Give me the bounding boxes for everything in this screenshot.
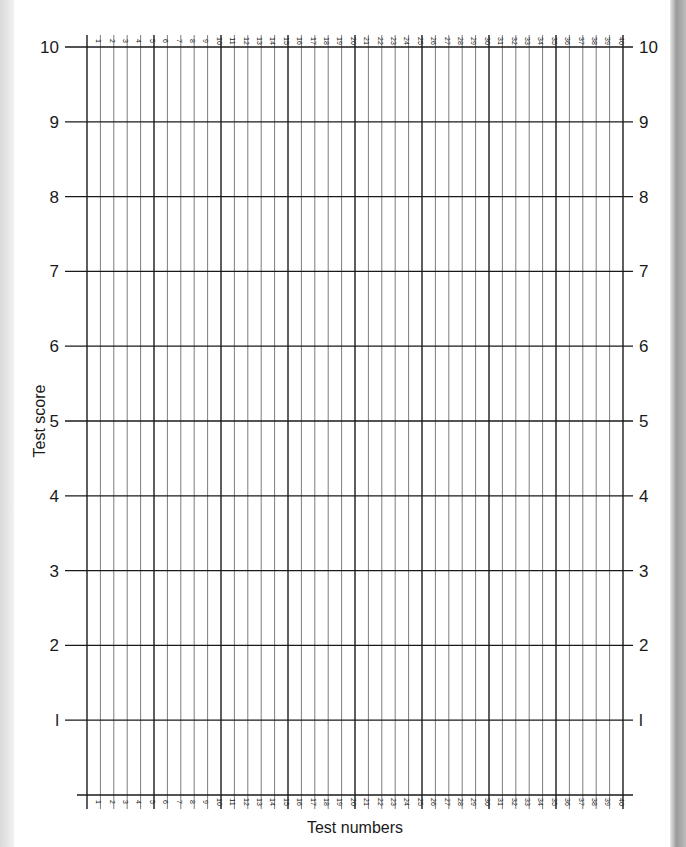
- x-tick-label-top: 1: [95, 39, 102, 43]
- x-tick-label-bottom: 25: [417, 798, 424, 806]
- x-tick-label-top: 24: [403, 37, 410, 45]
- x-tick-label-bottom: 39: [604, 798, 611, 806]
- x-tick-label-top: 33: [524, 37, 531, 45]
- x-tick-label-top: 40: [618, 37, 625, 45]
- x-tick-label-top: 8: [189, 39, 196, 43]
- x-tick-label-top: 3: [122, 39, 129, 43]
- x-tick-label-bottom: 3: [122, 800, 129, 804]
- y-tick-label-left: 2: [50, 636, 59, 655]
- y-tick-label-right: 8: [639, 188, 648, 207]
- y-tick-label-left: 3: [50, 562, 59, 581]
- x-tick-label-bottom: 26: [430, 798, 437, 806]
- y-tick-label-left: 4: [50, 487, 59, 506]
- x-tick-label-bottom: 36: [564, 798, 571, 806]
- x-tick-label-top: 2: [109, 39, 116, 43]
- x-tick-label-bottom: 24: [403, 798, 410, 806]
- x-tick-label-bottom: 5: [149, 800, 156, 804]
- y-tick-label-left: 10: [40, 38, 59, 57]
- x-tick-label-top: 29: [470, 37, 477, 45]
- x-tick-label-bottom: 20: [350, 798, 357, 806]
- x-tick-label-top: 26: [430, 37, 437, 45]
- x-tick-label-bottom: 13: [256, 798, 263, 806]
- x-tick-label-bottom: 33: [524, 798, 531, 806]
- x-tick-label-bottom: 1: [95, 800, 102, 804]
- x-tick-label-bottom: 21: [363, 798, 370, 806]
- y-tick-label-right: l: [639, 711, 643, 730]
- x-tick-label-top: 32: [511, 37, 518, 45]
- x-tick-label-top: 5: [149, 39, 156, 43]
- x-tick-label-bottom: 31: [497, 798, 504, 806]
- x-tick-label-bottom: 23: [390, 798, 397, 806]
- x-tick-label-bottom: 8: [189, 800, 196, 804]
- x-tick-label-bottom: 19: [336, 798, 343, 806]
- x-tick-label-top: 11: [229, 37, 236, 44]
- x-tick-label-bottom: 14: [269, 798, 276, 806]
- x-tick-label-top: 39: [604, 37, 611, 45]
- x-tick-label-top: 9: [202, 39, 209, 43]
- x-tick-label-bottom: 29: [470, 798, 477, 806]
- x-tick-label-top: 6: [162, 39, 169, 43]
- x-tick-label-top: 27: [444, 37, 451, 45]
- x-tick-label-bottom: 37: [578, 798, 585, 806]
- x-tick-label-bottom: 28: [457, 798, 464, 806]
- x-tick-label-bottom: 9: [202, 800, 209, 804]
- y-tick-label-left: 5: [50, 412, 59, 431]
- grid: [65, 35, 633, 809]
- y-tick-label-right: 9: [639, 113, 648, 132]
- x-tick-label-top: 34: [537, 37, 544, 45]
- x-tick-label-top: 18: [323, 37, 330, 45]
- x-tick-label-top: 38: [591, 37, 598, 45]
- x-tick-label-bottom: 38: [591, 798, 598, 806]
- x-tick-label-top: 21: [363, 37, 370, 45]
- y-tick-label-right: 10: [639, 38, 658, 57]
- y-tick-label-left: l: [55, 711, 59, 730]
- y-tick-label-right: 2: [639, 636, 648, 655]
- x-tick-label-top: 28: [457, 37, 464, 45]
- x-tick-label-top: 20: [350, 37, 357, 45]
- x-tick-label-bottom: 35: [551, 798, 558, 806]
- score-chart: ll22334455667788991010112233445566778899…: [0, 0, 686, 847]
- x-tick-label-top: 25: [417, 37, 424, 45]
- y-tick-label-left: 9: [50, 113, 59, 132]
- y-tick-label-right: 5: [639, 412, 648, 431]
- x-tick-label-bottom: 22: [377, 798, 384, 806]
- x-tick-label-bottom: 40: [618, 798, 625, 806]
- x-tick-label-top: 36: [564, 37, 571, 45]
- x-tick-label-bottom: 30: [484, 798, 491, 806]
- x-tick-label-top: 4: [135, 39, 142, 43]
- x-tick-label-bottom: 32: [511, 798, 518, 806]
- x-tick-label-bottom: 2: [109, 800, 116, 804]
- y-tick-label-right: 4: [639, 487, 648, 506]
- x-tick-label-bottom: 10: [216, 798, 223, 806]
- x-tick-label-top: 15: [283, 37, 290, 45]
- x-tick-label-bottom: 27: [444, 798, 451, 806]
- y-tick-label-left: 6: [50, 337, 59, 356]
- x-tick-label-bottom: 17: [310, 798, 317, 806]
- y-tick-label-right: 7: [639, 262, 648, 281]
- x-tick-label-top: 12: [243, 37, 250, 45]
- x-tick-label-top: 7: [176, 39, 183, 43]
- x-tick-label-bottom: 12: [243, 798, 250, 806]
- x-tick-label-bottom: 4: [135, 800, 142, 804]
- x-tick-label-top: 16: [296, 37, 303, 45]
- x-tick-label-bottom: 7: [176, 800, 183, 804]
- x-tick-label-bottom: 34: [537, 798, 544, 806]
- x-tick-label-bottom: 6: [162, 800, 169, 804]
- x-tick-label-top: 19: [336, 37, 343, 45]
- x-tick-label-top: 37: [578, 37, 585, 45]
- y-tick-label-left: 7: [50, 262, 59, 281]
- x-tick-label-bottom: 16: [296, 798, 303, 806]
- x-tick-label-top: 13: [256, 37, 263, 45]
- y-axis-title: Test score: [31, 384, 48, 457]
- x-tick-label-top: 10: [216, 37, 223, 45]
- x-tick-label-bottom: 18: [323, 798, 330, 806]
- x-tick-label-top: 30: [484, 37, 491, 45]
- x-tick-label-bottom: 11: [229, 798, 236, 805]
- x-axis-title: Test numbers: [307, 819, 403, 836]
- y-tick-label-right: 6: [639, 337, 648, 356]
- x-tick-label-top: 35: [551, 37, 558, 45]
- x-tick-label-top: 17: [310, 37, 317, 45]
- x-tick-label-top: 22: [377, 37, 384, 45]
- x-tick-label-top: 14: [269, 37, 276, 45]
- x-tick-label-bottom: 15: [283, 798, 290, 806]
